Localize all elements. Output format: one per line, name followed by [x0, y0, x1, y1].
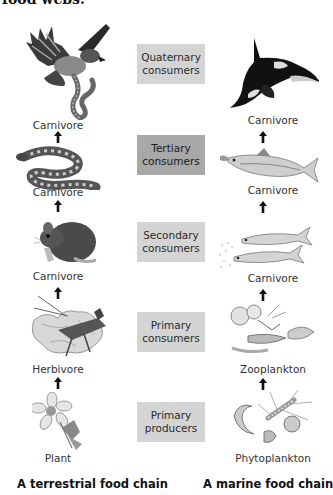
arrow-up-icon [259, 289, 267, 301]
level-quaternary-consumers: Quaternaryconsumers [137, 44, 205, 84]
level-label: consumers [142, 332, 199, 344]
level-label: producers [145, 422, 198, 434]
level-label: Quaternary [141, 51, 201, 63]
marine-label-secondary: Carnivore [218, 272, 328, 284]
arrow-up-icon [54, 200, 62, 212]
marine-caption: A marine food chain [203, 477, 333, 491]
phytoplankton-icon [228, 388, 318, 454]
terrestrial-label-producer: Plant [3, 452, 113, 464]
herring-icon [218, 225, 318, 277]
level-label: Primary [151, 409, 192, 421]
arrow-up-icon [54, 377, 62, 389]
orca-icon [224, 28, 319, 114]
marine-label-producer: Phytoplankton [218, 452, 328, 464]
level-tertiary-consumers: Tertiaryconsumers [137, 135, 205, 175]
level-label: Primary [151, 319, 192, 331]
level-primary-producers: Primaryproducers [137, 402, 205, 442]
marine-label-primary-consumer: Zooplankton [218, 363, 328, 375]
terrestrial-label-quaternary: Carnivore [3, 119, 113, 131]
terrestrial-label-tertiary: Carnivore [3, 186, 113, 198]
section-heading: food webs. [2, 0, 85, 7]
hawk-icon [18, 20, 113, 124]
arrow-up-icon [259, 131, 267, 143]
marine-label-tertiary: Carnivore [218, 184, 328, 196]
terrestrial-label-primary-consumer: Herbivore [3, 363, 113, 375]
terrestrial-caption: A terrestrial food chain [17, 477, 168, 491]
level-label: consumers [142, 64, 199, 76]
mouse-icon [34, 214, 104, 273]
level-label: consumers [142, 155, 199, 167]
level-label: Secondary [143, 229, 199, 241]
arrow-up-icon [54, 131, 62, 143]
level-primary-consumers: Primaryconsumers [137, 312, 205, 352]
level-secondary-consumers: Secondaryconsumers [137, 222, 205, 262]
terrestrial-label-secondary: Carnivore [3, 270, 113, 282]
grasshopper-icon [28, 290, 113, 364]
zooplankton-icon [228, 302, 318, 366]
arrow-up-icon [259, 201, 267, 213]
flower-icon [32, 392, 92, 456]
marine-label-quaternary: Carnivore [218, 114, 328, 126]
level-label: consumers [142, 242, 199, 254]
level-label: Tertiary [151, 142, 190, 154]
